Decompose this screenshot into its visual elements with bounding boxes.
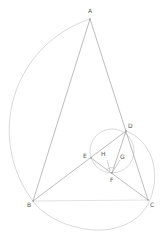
segment-ac (90, 19, 148, 200)
label-c: C (150, 201, 154, 208)
label-g: G (120, 153, 125, 160)
label-d: D (128, 122, 133, 129)
vertex-dots (32, 18, 149, 202)
label-e: E (83, 152, 87, 159)
label-h: H (101, 150, 106, 157)
segment-ab (33, 19, 90, 201)
segment-bd (33, 131, 126, 201)
segment-ec (91, 158, 148, 200)
label-a: A (88, 7, 93, 14)
arc-centered-d (9, 19, 90, 201)
segment-df (112, 131, 126, 173)
arc-d-to-b (33, 131, 155, 230)
segment-hf (107, 160, 110, 171)
label-b: B (27, 201, 31, 208)
label-f: F (110, 176, 114, 183)
segment-bc (33, 200, 148, 201)
geometry-diagram: A B C D E F G H (0, 0, 164, 242)
